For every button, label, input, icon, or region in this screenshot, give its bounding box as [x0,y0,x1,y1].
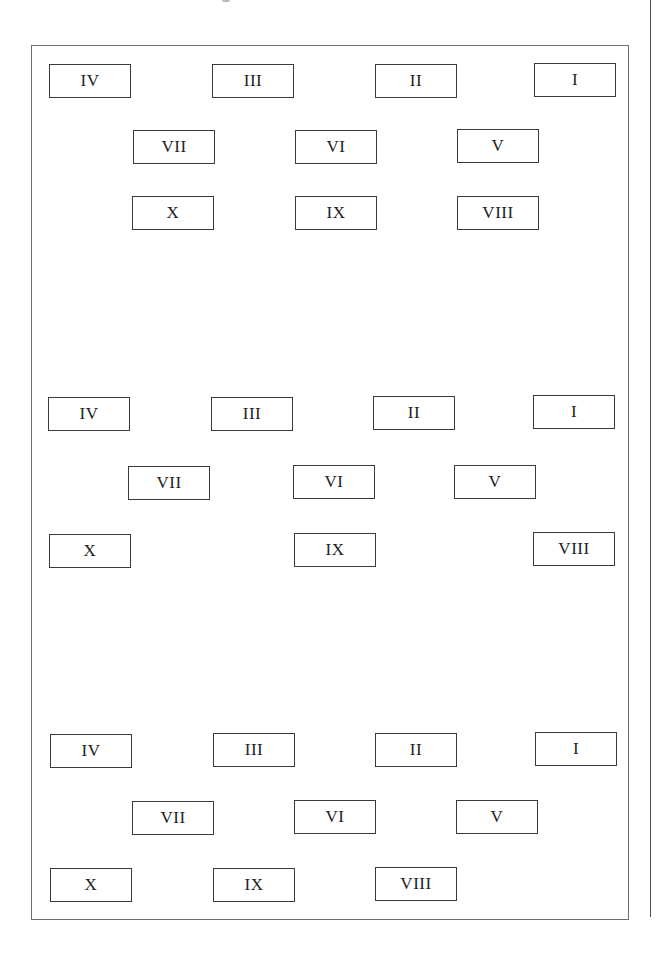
roman-numeral-label: I [572,70,578,90]
arrangement-3-box-x: X [50,868,132,902]
arrangement-2-box-ix: IX [294,533,376,567]
roman-numeral-label: VI [327,137,346,157]
roman-numeral-label: X [85,875,98,895]
arrangement-3-box-vii: VII [132,801,214,835]
arrangement-3-box-vi: VI [294,800,376,834]
arrangement-3-box-ii: II [375,733,457,767]
roman-numeral-label: VIII [400,874,431,894]
roman-numeral-label: VII [156,473,181,493]
roman-numeral-label: II [408,403,420,423]
roman-numeral-label: IX [245,875,264,895]
arrangement-2-box-v: V [454,465,536,499]
arrangement-3-box-iii: III [213,733,295,767]
roman-numeral-label: VII [160,808,185,828]
arrangement-2-box-vii: VII [128,466,210,500]
arrangement-2-box-iii: III [211,397,293,431]
roman-numeral-label: II [410,740,422,760]
arrangement-2-box-i: I [533,395,615,429]
roman-numeral-label: IV [82,741,101,761]
arrangement-1-box-ix: IX [295,196,377,230]
arrangement-2-box-vi: VI [293,465,375,499]
roman-numeral-label: IX [326,540,345,560]
roman-numeral-label: I [571,402,577,422]
arrangement-1-box-iii: III [212,64,294,98]
roman-numeral-label: V [492,136,505,156]
arrangement-3-box-i: I [535,732,617,766]
arrangement-2-box-ii: II [373,396,455,430]
arrangement-1-box-vii: VII [133,130,215,164]
arrangement-3-box-ix: IX [213,868,295,902]
arrangement-1-box-iv: IV [49,64,131,98]
roman-numeral-label: X [167,203,180,223]
arrangement-2-box-x: X [49,534,131,568]
arrangement-1-box-ii: II [375,64,457,98]
arrangement-1-box-viii: VIII [457,196,539,230]
arrangement-1-box-i: I [534,63,616,97]
roman-numeral-label: III [243,404,261,424]
roman-numeral-label: VI [326,807,345,827]
roman-numeral-label: VII [161,137,186,157]
arrangement-2-box-viii: VIII [533,532,615,566]
arrangement-1-box-vi: VI [295,130,377,164]
arrangement-1-box-v: V [457,129,539,163]
roman-numeral-label: X [84,541,97,561]
roman-numeral-label: II [410,71,422,91]
roman-numeral-label: I [573,739,579,759]
arrangement-3-box-viii: VIII [375,867,457,901]
roman-numeral-label: IX [327,203,346,223]
arrangement-3-box-v: V [456,800,538,834]
roman-numeral-label: VI [325,472,344,492]
page-margin-rule [650,0,651,917]
arrangement-1-box-x: X [132,196,214,230]
roman-numeral-label: III [245,740,263,760]
arrangement-3-box-iv: IV [50,734,132,768]
roman-numeral-label: V [491,807,504,827]
roman-numeral-label: III [244,71,262,91]
roman-numeral-label: IV [81,71,100,91]
roman-numeral-label: VIII [558,539,589,559]
clipped-caption-fragment [222,0,230,2]
roman-numeral-label: V [489,472,502,492]
arrangement-2-box-iv: IV [48,397,130,431]
roman-numeral-label: VIII [482,203,513,223]
roman-numeral-label: IV [80,404,99,424]
